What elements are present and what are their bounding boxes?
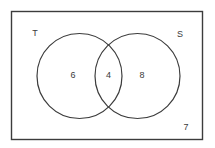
- universal-set-rectangle: [12, 12, 203, 140]
- venn-diagram-canvas: [0, 0, 215, 148]
- venn-diagram-figure: T S 6 4 8 7: [0, 0, 215, 148]
